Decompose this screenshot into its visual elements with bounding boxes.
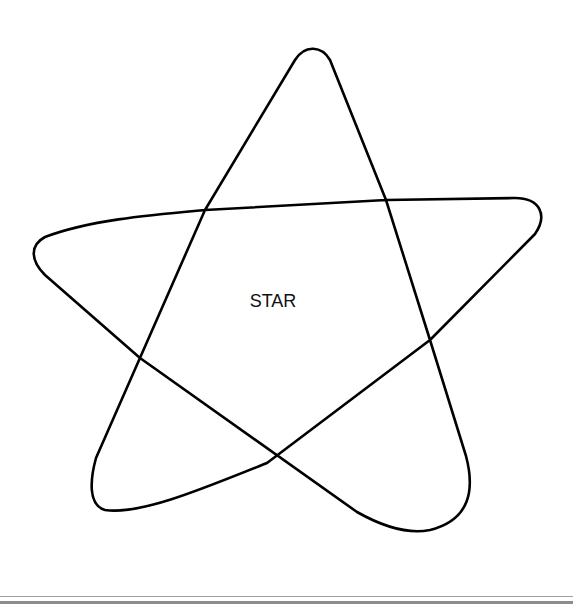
bottom-rule-1 bbox=[0, 596, 573, 597]
star-diagram: STAR bbox=[0, 0, 573, 604]
star-label: STAR bbox=[250, 291, 297, 311]
